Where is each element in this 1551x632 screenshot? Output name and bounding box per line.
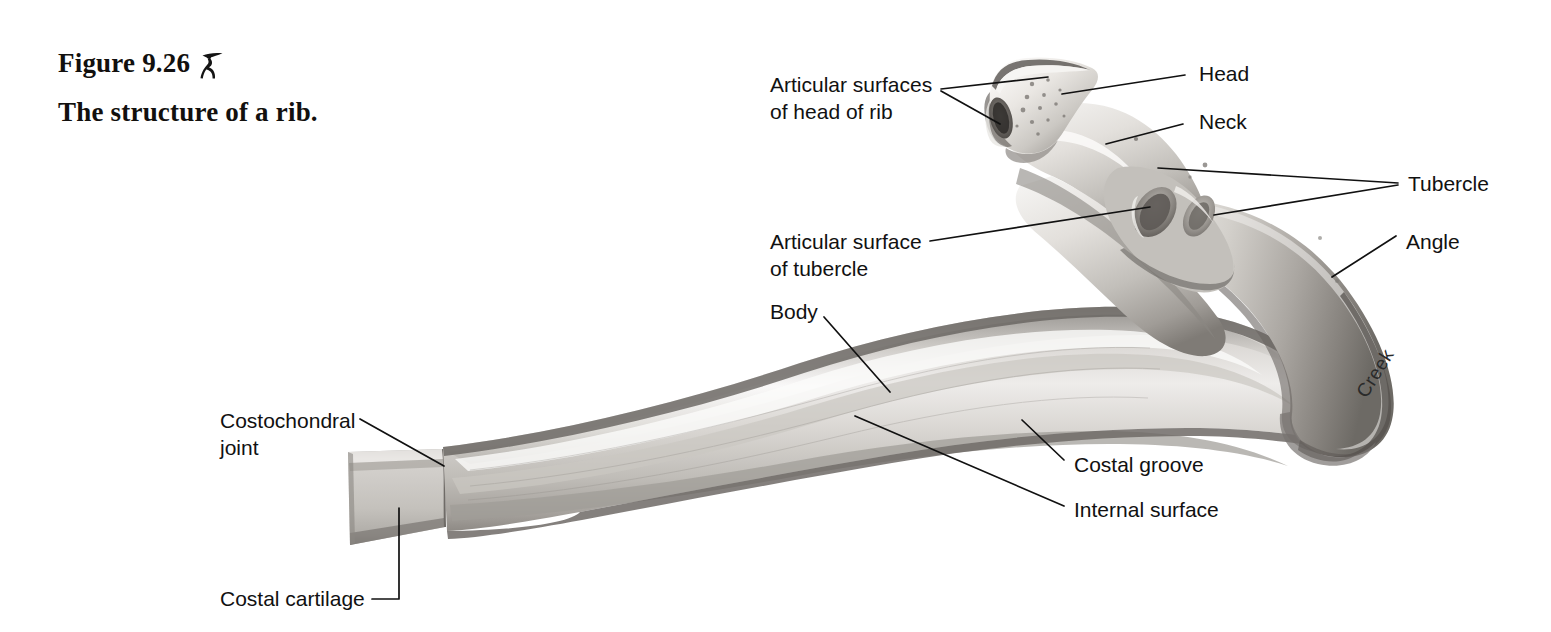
label-angle: Angle (1406, 229, 1460, 256)
label-costal-cartilage: Costal cartilage (220, 586, 365, 613)
label-costal-groove: Costal groove (1074, 452, 1204, 479)
label-neck: Neck (1199, 109, 1247, 136)
figure-rib-structure: Figure 9.26 The structure of a rib. (0, 0, 1551, 632)
label-body: Body (770, 299, 818, 326)
label-internal-surface: Internal surface (1074, 497, 1219, 524)
label-head: Head (1199, 61, 1249, 88)
label-costochondral-joint: Costochondral joint (220, 408, 355, 462)
label-articular-surface-of-tubercle: Articular surface of tubercle (770, 229, 922, 283)
label-articular-surfaces-of-head-of-rib: Articular surfaces of head of rib (770, 72, 932, 126)
costal-cartilage-shape (348, 449, 445, 545)
label-tubercle: Tubercle (1408, 171, 1489, 198)
